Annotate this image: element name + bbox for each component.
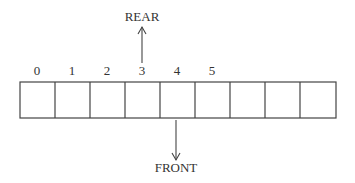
rear-label: REAR: [125, 9, 160, 25]
index-label: 3: [139, 63, 146, 79]
front-label: FRONT: [155, 160, 198, 176]
array-cells: [20, 82, 336, 118]
queue-diagram: [0, 0, 355, 183]
index-label: 5: [209, 63, 216, 79]
index-label: 2: [104, 63, 111, 79]
front-arrow-icon: [172, 120, 180, 160]
index-label: 4: [174, 63, 181, 79]
rear-arrow-icon: [138, 27, 146, 63]
index-label: 1: [69, 63, 76, 79]
index-label: 0: [34, 63, 41, 79]
